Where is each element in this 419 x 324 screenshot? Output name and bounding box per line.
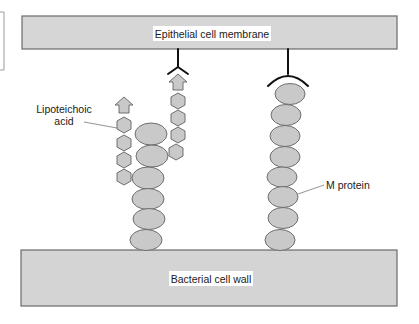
m-protein-subunit [270, 147, 300, 168]
lta-hexagon [117, 169, 131, 185]
m-protein-callout: M protein [298, 179, 370, 194]
lta-hexagon [117, 135, 131, 151]
protein-subunit [132, 167, 164, 189]
y-receptor-icon [168, 49, 188, 74]
protein-subunit [136, 145, 168, 167]
epithelial-cell-membrane: Epithelial cell membrane [22, 16, 397, 49]
lipoteichoic-label-line2: acid [54, 115, 73, 127]
lipoteichoic-acid-left [115, 97, 133, 185]
m-protein-subunit [268, 187, 298, 208]
lipoteichoic-label-line1: Lipoteichoic [36, 103, 91, 115]
m-protein-subunit [275, 84, 305, 105]
m-protein-subunit [268, 208, 298, 229]
m-protein-leader-line [298, 185, 324, 194]
lta-hexagon [171, 127, 185, 143]
m-protein-subunit [271, 105, 301, 126]
membrane-label: Epithelial cell membrane [155, 28, 270, 40]
lta-hexagon [117, 152, 131, 168]
lta-arrow-head-icon [169, 74, 187, 90]
bacterial-cell-wall: Bacterial cell wall [21, 250, 397, 306]
left-protein-stack [130, 123, 168, 251]
arc-receptor-icon [268, 49, 308, 86]
lta-hexagon [117, 117, 131, 133]
lta-arrow-head-icon [115, 97, 133, 113]
protein-subunit [135, 123, 167, 145]
cell-wall-label: Bacterial cell wall [171, 273, 252, 285]
lta-hexagon [169, 144, 183, 160]
lipoteichoic-acid-right [169, 74, 187, 160]
m-protein-label: M protein [326, 179, 370, 191]
m-protein-subunit [265, 230, 295, 251]
lipoteichoic-leader-line [84, 122, 117, 128]
diagram-canvas: Epithelial cell membrane Bacterial cell … [0, 0, 419, 324]
m-protein-subunit [267, 167, 297, 187]
m-protein-stack [265, 84, 305, 251]
protein-subunit [132, 189, 164, 210]
protein-subunit [133, 209, 165, 230]
lta-hexagon [171, 93, 185, 109]
lipoteichoic-acid-callout: Lipoteichoic acid [36, 103, 117, 128]
lta-hexagon [171, 110, 185, 126]
protein-subunit [130, 230, 162, 251]
cropped-edge-box [0, 12, 4, 70]
m-protein-subunit [270, 126, 300, 147]
